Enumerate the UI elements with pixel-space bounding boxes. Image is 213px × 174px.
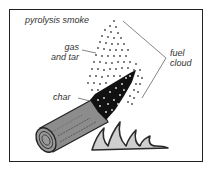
label-fuel-line1: fuel <box>170 48 192 58</box>
label-fuel-line2: cloud <box>170 58 192 68</box>
label-pyrolysis-smoke: pyrolysis smoke <box>25 15 89 25</box>
fuel-cloud-leader-bottom <box>142 58 166 98</box>
label-fuel-cloud: fuel cloud <box>170 48 192 68</box>
label-gas-line1: gas <box>45 42 79 52</box>
label-char: char <box>53 92 71 102</box>
char-leader-line <box>78 98 90 101</box>
label-gas-line2: and tar <box>45 52 79 62</box>
fuel-cloud-leader-top <box>123 21 166 58</box>
gas-leader-line <box>82 50 96 53</box>
flame-icon <box>92 122 168 150</box>
label-gas-and-tar: gas and tar <box>45 42 79 62</box>
combustion-illustration <box>0 0 213 174</box>
